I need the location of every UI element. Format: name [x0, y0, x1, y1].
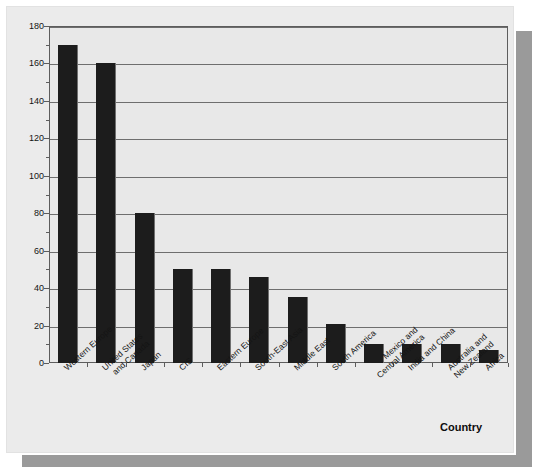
- y-axis-tick-label: 160: [4, 58, 44, 68]
- y-axis-tick-label: 20: [4, 321, 44, 331]
- y-axis-tick-label: 40: [4, 283, 44, 293]
- bar: [173, 269, 193, 363]
- bar: [58, 45, 78, 363]
- panel-shadow-bottom: [22, 455, 532, 467]
- y-axis-tick-label: 100: [4, 171, 44, 181]
- bar: [249, 277, 269, 363]
- y-axis-tick-label: 80: [4, 208, 44, 218]
- y-axis-tick-label: 140: [4, 96, 44, 106]
- chart-page: 020406080100120140160180 Western EuropeU…: [0, 0, 541, 474]
- x-axis-title: Country: [440, 421, 482, 433]
- x-axis-category-labels: Western EuropeUnited Statesand CanadaJap…: [49, 365, 519, 455]
- bar: [211, 269, 231, 363]
- y-axis-tick-label: 180: [4, 21, 44, 31]
- y-axis-tick-mark: [44, 363, 49, 364]
- y-axis-labels: 020406080100120140160180: [0, 26, 44, 363]
- bar: [96, 63, 116, 363]
- y-axis-tick-label: 0: [4, 358, 44, 368]
- bars-container: [49, 26, 508, 363]
- y-axis-tick-label: 60: [4, 246, 44, 256]
- y-axis-tick-label: 120: [4, 133, 44, 143]
